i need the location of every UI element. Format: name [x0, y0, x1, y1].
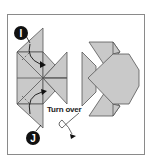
turn-over-arrowhead [70, 134, 76, 139]
turn-over-label: Turn over [47, 105, 82, 114]
badge-leader-j [36, 125, 41, 131]
fish-top-fin-tip [113, 42, 120, 54]
fish-model [82, 42, 139, 116]
fish-body [88, 54, 139, 104]
svg-text:J: J [30, 133, 36, 144]
fish-bottom-fin-tip [113, 104, 120, 116]
step-badge-j: J [26, 131, 40, 145]
origami-diagram: I J [0, 0, 155, 163]
bottom-flap [17, 104, 43, 128]
step-badge-i: I [14, 26, 28, 40]
turn-over-icon [59, 113, 79, 134]
svg-text:I: I [20, 28, 23, 39]
